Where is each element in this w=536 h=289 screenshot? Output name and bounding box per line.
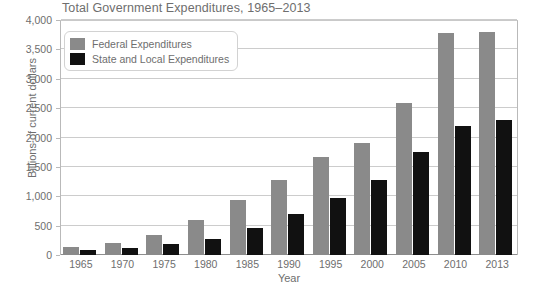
bar-state-local-1980 bbox=[205, 239, 221, 255]
bar-state-local-2005 bbox=[413, 152, 429, 255]
legend-item-state-local: State and Local Expenditures bbox=[70, 51, 229, 66]
bar-state-local-2000 bbox=[371, 180, 387, 255]
legend-swatch-federal-icon bbox=[70, 38, 85, 50]
bar-group bbox=[477, 21, 519, 255]
bar-state-local-1970 bbox=[122, 248, 138, 255]
bar-federal-2010 bbox=[438, 33, 454, 255]
bar-group bbox=[436, 21, 478, 255]
bar-federal-1995 bbox=[313, 157, 329, 255]
bar-group bbox=[269, 21, 311, 255]
chart-title: Total Government Expenditures, 1965–2013 bbox=[62, 1, 311, 15]
bar-federal-1980 bbox=[188, 220, 204, 255]
bar-state-local-2013 bbox=[496, 120, 512, 255]
legend-label-state-local: State and Local Expenditures bbox=[92, 53, 229, 65]
bar-federal-1975 bbox=[146, 235, 162, 255]
bar-federal-1985 bbox=[230, 200, 246, 255]
bar-group bbox=[394, 21, 436, 255]
legend-label-federal: Federal Expenditures bbox=[92, 38, 192, 50]
x-axis-tick-label: 1990 bbox=[277, 258, 300, 270]
y-axis-tick-labels: 05001,0001,5002,0002,5003,0003,5004,000 bbox=[0, 0, 60, 275]
x-axis-tick-label: 1985 bbox=[236, 258, 259, 270]
x-axis-tick-label: 2005 bbox=[402, 258, 425, 270]
bar-group bbox=[311, 21, 353, 255]
bar-state-local-1990 bbox=[288, 214, 304, 255]
x-axis-tick-label: 1975 bbox=[152, 258, 175, 270]
chart-legend: Federal Expenditures State and Local Exp… bbox=[64, 31, 238, 71]
bar-federal-1970 bbox=[105, 243, 121, 255]
bar-group bbox=[352, 21, 394, 255]
x-axis-title: Year bbox=[60, 272, 518, 284]
y-axis-tick-label: 3,000 bbox=[26, 73, 52, 85]
bar-state-local-1975 bbox=[163, 244, 179, 255]
x-axis-tick-label: 2010 bbox=[444, 258, 467, 270]
y-axis-tick-label: 1,000 bbox=[26, 190, 52, 202]
y-axis-tick-label: 0 bbox=[46, 249, 52, 261]
y-axis-tick-label: 3,500 bbox=[26, 43, 52, 55]
y-axis-tick-label: 2,000 bbox=[26, 132, 52, 144]
bar-state-local-2010 bbox=[455, 126, 471, 255]
x-axis-tick-label: 2013 bbox=[485, 258, 508, 270]
legend-item-federal: Federal Expenditures bbox=[70, 36, 229, 51]
bar-federal-2005 bbox=[396, 103, 412, 255]
x-axis-tick-label: 1965 bbox=[69, 258, 92, 270]
bar-state-local-1965 bbox=[80, 250, 96, 255]
chart-figure: Total Government Expenditures, 1965–2013… bbox=[0, 0, 536, 289]
x-axis-tick-label: 2000 bbox=[361, 258, 384, 270]
y-axis-tick-label: 2,500 bbox=[26, 102, 52, 114]
bar-federal-2000 bbox=[354, 143, 370, 255]
gridline bbox=[61, 19, 517, 20]
bar-federal-1965 bbox=[63, 247, 79, 255]
bar-federal-1990 bbox=[271, 180, 287, 255]
x-axis-tick-label: 1980 bbox=[194, 258, 217, 270]
bar-state-local-1985 bbox=[247, 228, 263, 255]
bar-state-local-1995 bbox=[330, 198, 346, 255]
bar-federal-2013 bbox=[479, 32, 495, 255]
x-axis-tick-label: 1970 bbox=[111, 258, 134, 270]
y-axis-tick-label: 500 bbox=[34, 220, 52, 232]
legend-swatch-state-local-icon bbox=[70, 53, 85, 65]
y-axis-tick-label: 4,000 bbox=[26, 14, 52, 26]
x-axis-tick-label: 1995 bbox=[319, 258, 342, 270]
y-axis-tick-label: 1,500 bbox=[26, 161, 52, 173]
